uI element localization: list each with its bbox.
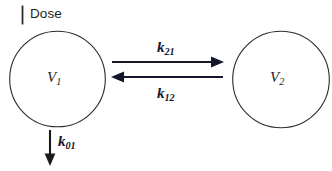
elimination-arrow-k01: [45, 130, 56, 166]
compartment-label-central-sub: 1: [56, 76, 61, 87]
rate-label-k21-base: k: [157, 39, 165, 55]
transfer-arrow-k21: [112, 56, 224, 67]
rate-label-k12: k12: [157, 86, 175, 101]
dose-label: Dose: [30, 7, 62, 21]
compartment-label-peripheral-sub: 2: [279, 76, 284, 87]
compartment-label-central: V1: [47, 70, 61, 85]
rate-label-k21-sub: 21: [165, 46, 175, 57]
transfer-arrow-k12: [111, 71, 223, 82]
rate-label-k01: k01: [58, 134, 76, 149]
rate-label-k21: k21: [157, 40, 175, 55]
rate-label-k12-sub: 12: [165, 92, 175, 103]
compartment-label-peripheral: V2: [270, 70, 284, 85]
rate-label-k01-base: k: [58, 133, 66, 149]
rate-label-k01-sub: 01: [66, 140, 76, 151]
rate-label-k12-base: k: [157, 85, 165, 101]
compartment-label-central-base: V: [47, 69, 56, 85]
pk-two-compartment-diagram: Dose V1 V2 k21 k12 k01: [0, 0, 332, 171]
compartment-label-peripheral-base: V: [270, 69, 279, 85]
